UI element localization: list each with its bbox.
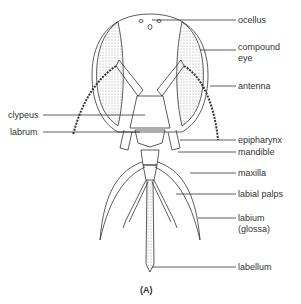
label-antenna: antenna	[238, 81, 271, 91]
label-maxilla: maxilla	[238, 168, 266, 178]
label-labium-glossa: (glossa)	[238, 224, 270, 234]
label-epipharynx: epipharynx	[238, 135, 282, 145]
label-compound-eye: compound	[238, 42, 280, 52]
label-ocellus: ocellus	[238, 15, 266, 25]
label-clypeus: clypeus	[8, 110, 39, 120]
label-labium: labium	[238, 213, 265, 223]
label-labrum: labrum	[10, 127, 38, 137]
label-mandible: mandible	[238, 147, 275, 157]
label-labial-palps: labial palps	[238, 189, 283, 199]
label-compound-eye-line2: eye	[238, 53, 253, 63]
figure-caption: (A)	[140, 285, 153, 295]
label-labellum: labellum	[238, 262, 272, 272]
